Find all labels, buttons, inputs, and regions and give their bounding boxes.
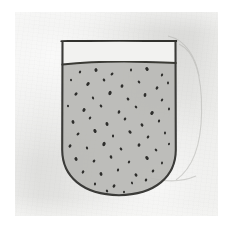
paper-grain-layer-3 xyxy=(15,12,218,216)
paper-grain-layer-1 xyxy=(15,12,218,216)
paper-sheet xyxy=(15,12,218,216)
screenshot-canvas xyxy=(0,0,237,237)
paper-grain-layer-2 xyxy=(15,12,218,216)
